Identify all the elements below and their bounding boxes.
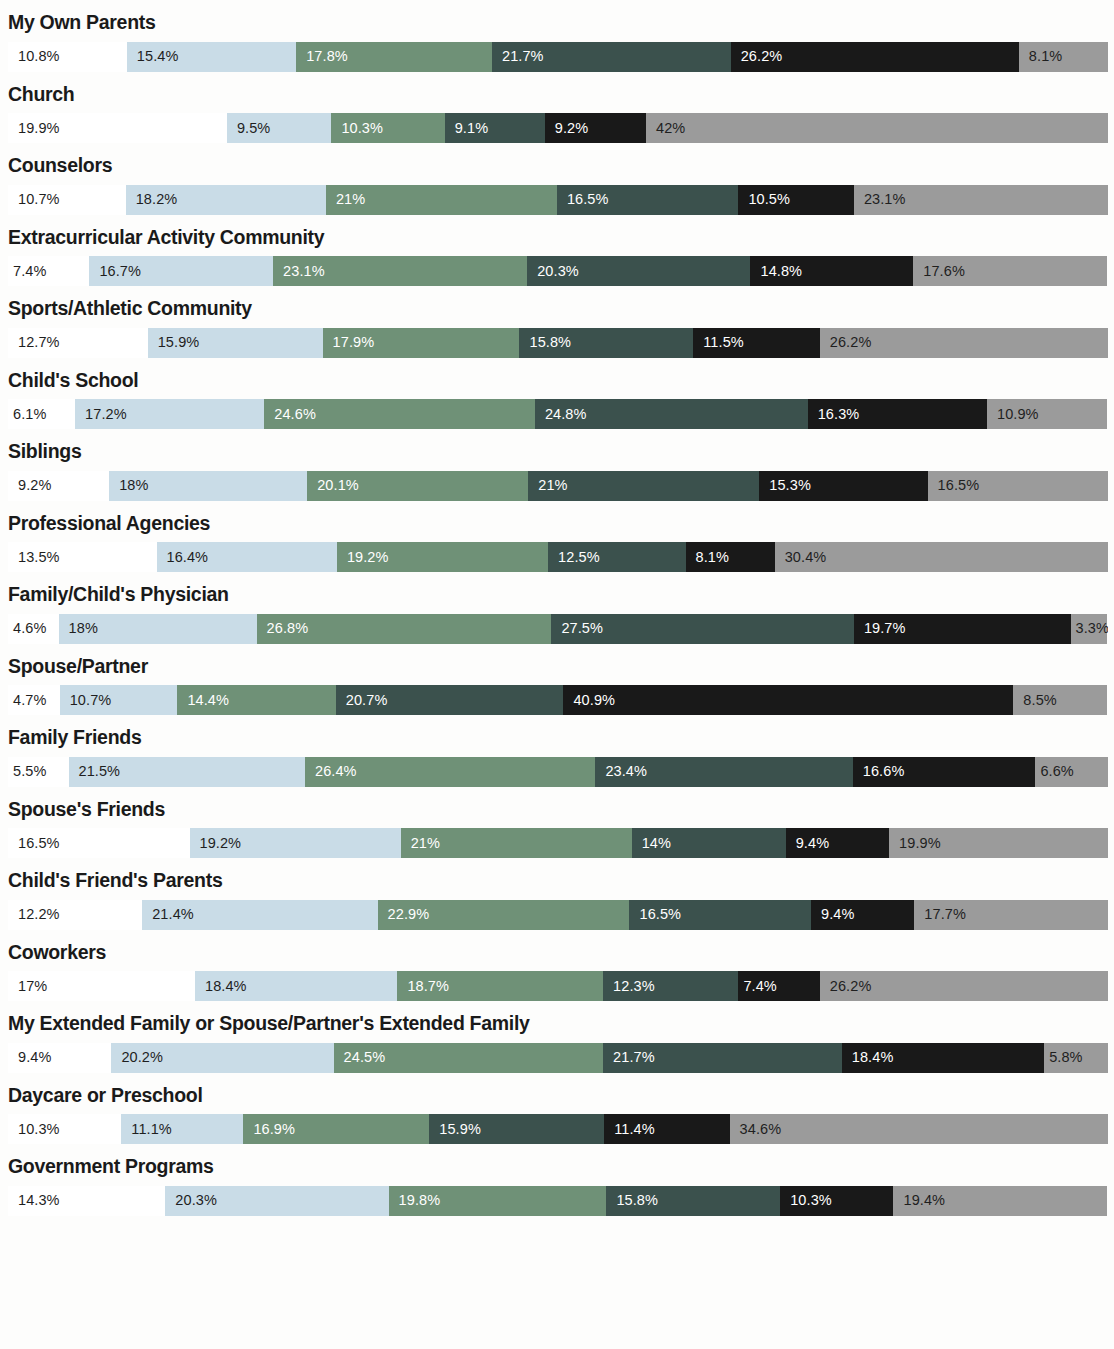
bar-segment: 17.7%: [914, 900, 1108, 930]
bar-segment: 18.4%: [842, 1043, 1044, 1073]
bar-segment: 14.3%: [8, 1186, 165, 1216]
bar-segment: 42%: [646, 113, 1108, 143]
bar-segment: 20.2%: [111, 1043, 333, 1073]
bar-segment: 16.9%: [243, 1114, 429, 1144]
bar-segment-value: 30.4%: [775, 550, 827, 565]
bar-segment-value: 10.7%: [8, 192, 60, 207]
bar-segment-value: 24.8%: [535, 407, 587, 422]
bar-segment: 7.4%: [738, 971, 819, 1001]
bar-segment-value: 10.7%: [60, 693, 112, 708]
bar-segment: 8.5%: [1013, 685, 1107, 715]
bar-segment-value: 9.4%: [786, 836, 829, 851]
bar-segment: 12.7%: [8, 328, 148, 358]
bar-segment: 23.1%: [854, 185, 1108, 215]
bar-segment: 18%: [59, 614, 257, 644]
row-category-label: Professional Agencies: [8, 501, 1108, 543]
bar-segment: 10.8%: [8, 42, 127, 72]
bar-segment-value: 15.3%: [759, 478, 811, 493]
bar-segment: 6.1%: [8, 399, 75, 429]
chart-row: My Own Parents10.8%15.4%17.8%21.7%26.2%8…: [0, 0, 1114, 72]
bar-segment: 24.5%: [334, 1043, 604, 1073]
chart-row: Spouse/Partner4.7%10.7%14.4%20.7%40.9%8.…: [0, 644, 1114, 716]
bar-segment: 17.9%: [323, 328, 520, 358]
bar-segment-value: 10.3%: [780, 1193, 832, 1208]
bar-segment: 21%: [326, 185, 557, 215]
bar-segment: 26.4%: [305, 757, 595, 787]
row-category-label: Government Programs: [8, 1144, 1108, 1186]
bar-segment: 20.3%: [165, 1186, 388, 1216]
stacked-bar: 19.9%9.5%10.3%9.1%9.2%42%: [8, 113, 1108, 143]
bar-segment-value: 19.9%: [889, 836, 941, 851]
bar-segment-value: 26.4%: [305, 764, 357, 779]
bar-segment-value: 3.3%: [1071, 621, 1108, 636]
stacked-bar: 5.5%21.5%26.4%23.4%16.6%6.6%: [8, 757, 1108, 787]
bar-segment-value: 17.8%: [296, 49, 348, 64]
bar-segment: 9.2%: [8, 471, 109, 501]
bar-segment-value: 23.4%: [595, 764, 647, 779]
bar-segment-value: 10.5%: [738, 192, 790, 207]
bar-segment-value: 17%: [8, 979, 47, 994]
bar-segment-value: 15.9%: [429, 1122, 481, 1137]
bar-segment: 9.2%: [545, 113, 646, 143]
chart-row: Counselors10.7%18.2%21%16.5%10.5%23.1%: [0, 143, 1114, 215]
bar-segment-value: 10.3%: [8, 1122, 60, 1137]
bar-segment: 5.5%: [8, 757, 69, 787]
stacked-bar: 10.3%11.1%16.9%15.9%11.4%34.6%: [8, 1114, 1108, 1144]
bar-segment: 16.6%: [853, 757, 1036, 787]
bar-segment: 10.9%: [987, 399, 1107, 429]
bar-segment-value: 17.6%: [913, 264, 965, 279]
stacked-bar: 6.1%17.2%24.6%24.8%16.3%10.9%: [8, 399, 1108, 429]
bar-segment-value: 16.5%: [8, 836, 60, 851]
bar-segment: 6.6%: [1035, 757, 1108, 787]
bar-segment-value: 16.4%: [157, 550, 209, 565]
bar-segment-value: 4.7%: [8, 693, 46, 708]
stacked-bar: 13.5%16.4%19.2%12.5%8.1%30.4%: [8, 542, 1108, 572]
bar-segment-value: 23.1%: [854, 192, 906, 207]
row-category-label: My Own Parents: [8, 0, 1108, 42]
bar-segment-value: 15.4%: [127, 49, 179, 64]
bar-segment: 19.4%: [893, 1186, 1106, 1216]
bar-segment-value: 26.2%: [731, 49, 783, 64]
bar-segment-value: 26.2%: [820, 979, 872, 994]
bar-segment: 26.2%: [820, 328, 1108, 358]
stacked-bar: 10.7%18.2%21%16.5%10.5%23.1%: [8, 185, 1108, 215]
bar-segment-value: 27.5%: [551, 621, 603, 636]
bar-segment: 26.2%: [731, 42, 1019, 72]
bar-segment-value: 21.7%: [492, 49, 544, 64]
bar-segment-value: 14%: [632, 836, 671, 851]
bar-segment: 18.2%: [126, 185, 326, 215]
bar-segment-value: 12.5%: [548, 550, 600, 565]
stacked-bar: 9.4%20.2%24.5%21.7%18.4%5.8%: [8, 1043, 1108, 1073]
bar-segment: 16.4%: [157, 542, 337, 572]
stacked-bar: 10.8%15.4%17.8%21.7%26.2%8.1%: [8, 42, 1108, 72]
bar-segment: 21%: [528, 471, 759, 501]
bar-segment: 18.7%: [397, 971, 603, 1001]
bar-segment-value: 16.7%: [89, 264, 141, 279]
bar-segment: 3.3%: [1071, 614, 1107, 644]
bar-segment-value: 22.9%: [378, 907, 430, 922]
row-category-label: Family/Child's Physician: [8, 572, 1108, 614]
bar-segment-value: 9.1%: [445, 121, 488, 136]
bar-segment-value: 21%: [326, 192, 365, 207]
bar-segment-value: 13.5%: [8, 550, 60, 565]
bar-segment-value: 42%: [646, 121, 685, 136]
bar-segment-value: 17.7%: [914, 907, 966, 922]
bar-segment-value: 10.8%: [8, 49, 60, 64]
bar-segment: 9.4%: [8, 1043, 111, 1073]
chart-row: Spouse's Friends16.5%19.2%21%14%9.4%19.9…: [0, 787, 1114, 859]
bar-segment-value: 8.1%: [1019, 49, 1062, 64]
row-category-label: Extracurricular Activity Community: [8, 215, 1108, 257]
bar-segment-value: 20.3%: [527, 264, 579, 279]
bar-segment-value: 21%: [401, 836, 440, 851]
bar-segment: 24.6%: [264, 399, 535, 429]
bar-segment: 16.5%: [557, 185, 739, 215]
bar-segment-value: 40.9%: [563, 693, 615, 708]
bar-segment-value: 26.2%: [820, 335, 872, 350]
bar-segment: 8.1%: [686, 542, 775, 572]
chart-row: My Extended Family or Spouse/Partner's E…: [0, 1001, 1114, 1073]
bar-segment-value: 19.9%: [8, 121, 60, 136]
bar-segment-value: 15.9%: [148, 335, 200, 350]
bar-segment-value: 19.2%: [337, 550, 389, 565]
bar-segment: 14.8%: [750, 256, 913, 286]
bar-segment-value: 9.2%: [8, 478, 51, 493]
